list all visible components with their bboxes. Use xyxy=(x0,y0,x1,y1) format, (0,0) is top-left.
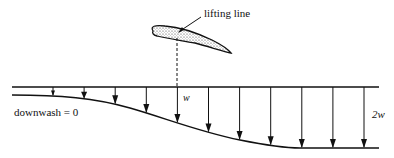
downwash-curve xyxy=(12,95,379,148)
downwash-arrowhead-9 xyxy=(299,139,305,148)
downwash-arrowhead-2 xyxy=(81,92,87,99)
downwash-arrowhead-1 xyxy=(51,91,55,96)
w-label: w xyxy=(183,92,190,103)
downwash-diagram: lifting line downwash = 0 w 2w xyxy=(0,0,394,158)
downwash-zero-label: downwash = 0 xyxy=(14,106,79,118)
downwash-arrowhead-3 xyxy=(112,95,118,104)
downwash-arrowhead-10 xyxy=(330,139,336,148)
downwash-arrowhead-7 xyxy=(237,131,243,140)
two-w-label: 2w xyxy=(372,108,386,120)
downwash-arrowhead-8 xyxy=(268,136,274,145)
lifting-line-label: lifting line xyxy=(204,7,250,19)
downwash-arrowhead-11 xyxy=(361,139,367,148)
downwash-arrows xyxy=(51,87,367,148)
airfoil xyxy=(152,26,231,53)
